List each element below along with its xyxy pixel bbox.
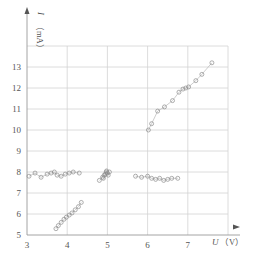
y-tick-label: 9 [17, 146, 22, 156]
y-tick-label: 6 [17, 209, 22, 219]
y-axis-label: I （mA） [35, 11, 46, 53]
x-axis-label: U （V） [212, 237, 244, 247]
x-tick-label: 6 [145, 240, 150, 250]
series-cluster-near-5V [97, 169, 111, 182]
x-tick-label: 7 [186, 240, 191, 250]
axes [25, 7, 241, 235]
iv-scatter-chart: 345675678910111213 I （mA） U （V） [0, 0, 263, 257]
data-point-marker [210, 61, 214, 65]
x-axis-arrow-icon [233, 225, 240, 230]
y-axis-unit: （mA） [35, 22, 45, 53]
series-rising-high [146, 61, 214, 132]
y-tick-label: 12 [12, 83, 21, 93]
y-axis-variable: I [36, 11, 46, 16]
y-tick-label: 13 [12, 62, 22, 72]
y-tick-label: 7 [17, 188, 22, 198]
series-cluster-flat-right [134, 174, 180, 182]
series-line [148, 63, 212, 130]
tick-labels: 345675678910111213 [12, 62, 191, 250]
y-tick-label: 5 [17, 230, 22, 240]
series-line [136, 176, 178, 180]
y-tick-label: 11 [12, 104, 21, 114]
y-tick-label: 10 [12, 125, 22, 135]
series-rising-low [54, 200, 83, 230]
y-axis-arrow-icon [25, 7, 30, 14]
x-tick-label: 5 [105, 240, 110, 250]
data-series [27, 61, 214, 231]
grid-lines [27, 46, 228, 235]
x-axis-unit: （V） [220, 237, 244, 247]
series-line [56, 202, 81, 228]
y-tick-label: 8 [17, 167, 22, 177]
series-cluster-flat-left [27, 170, 81, 179]
x-axis-variable: U [212, 237, 219, 247]
x-tick-label: 4 [65, 240, 70, 250]
x-tick-label: 3 [25, 240, 30, 250]
data-point-marker [97, 178, 101, 182]
